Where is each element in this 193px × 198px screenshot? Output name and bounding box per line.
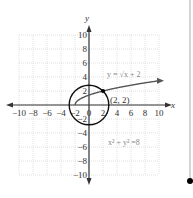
- y-tick-label: 8: [83, 44, 88, 54]
- x-axis-label: x: [170, 100, 175, 110]
- x-tick-label: 0: [87, 108, 92, 118]
- y-tick-label: −10: [73, 170, 88, 180]
- y-tick-label: 2: [83, 86, 88, 96]
- y-tick-label: −6: [77, 142, 87, 152]
- x-tick-label: −8: [28, 108, 38, 118]
- y-tick-label: 4: [83, 72, 88, 82]
- circle-equation-label: x² + y² =8: [108, 138, 140, 147]
- y-axis-arrow-down-icon: [87, 178, 92, 185]
- graph-canvas: −10−8−6−4−20246810108642−2−4−6−8−10 x y …: [0, 0, 193, 198]
- side-marker-dot: [187, 178, 193, 184]
- x-tick-label: −4: [56, 108, 66, 118]
- x-tick-label: 10: [155, 108, 165, 118]
- curve-equation-label: y = √x + 2: [107, 70, 140, 79]
- x-tick-label: 8: [143, 108, 148, 118]
- x-tick-label: −10: [12, 108, 27, 118]
- y-tick-label: 10: [78, 30, 88, 40]
- x-axis-arrow-left-icon: [6, 103, 13, 108]
- y-tick-label: 6: [83, 58, 88, 68]
- y-axis-arrow-up-icon: [87, 25, 92, 32]
- x-tick-label: 6: [129, 108, 134, 118]
- curve-arrow-icon: [157, 78, 164, 84]
- x-tick-label: 4: [115, 108, 120, 118]
- y-axis-label: y: [84, 13, 89, 23]
- x-tick-label: −6: [42, 108, 52, 118]
- intersection-point-label: (2, 2): [110, 95, 130, 105]
- y-tick-label: −4: [77, 128, 87, 138]
- y-tick-label: −8: [77, 156, 87, 166]
- intersection-point: [101, 89, 105, 93]
